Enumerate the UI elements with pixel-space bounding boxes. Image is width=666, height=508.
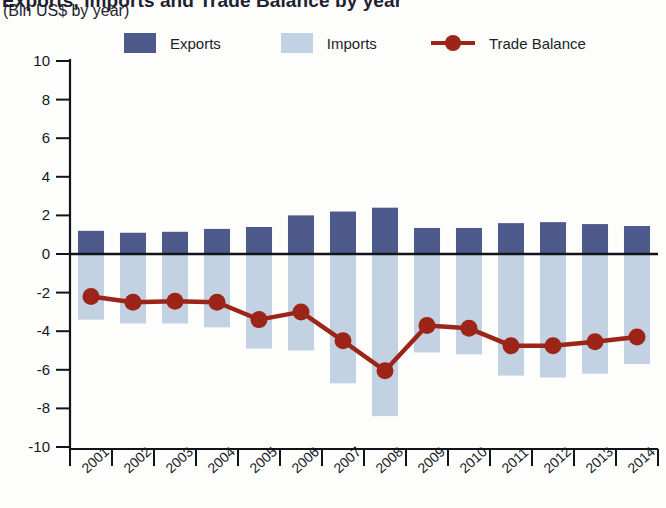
y-tick-group: 1086420-2-4-6-8-10 [28, 52, 70, 455]
bar-imports [330, 254, 356, 383]
y-tick-label: -2 [37, 284, 50, 301]
bar-exports [288, 215, 314, 254]
bar-exports [120, 233, 146, 254]
bar-exports [540, 222, 566, 254]
trade-balance-marker [167, 293, 184, 310]
bar-exports [498, 223, 524, 254]
trade-balance-marker [83, 288, 100, 305]
trade-balance-marker [545, 337, 562, 354]
y-tick-label: 6 [42, 129, 50, 146]
bar-imports [582, 254, 608, 374]
bar-exports [204, 229, 230, 254]
trade-balance-marker [587, 333, 604, 350]
trade-balance-marker [377, 362, 394, 379]
bar-exports [162, 232, 188, 254]
trade-balance-marker [209, 294, 226, 311]
y-axis: 1086420-2-4-6-8-10 [28, 52, 70, 455]
bar-imports [246, 254, 272, 349]
y-tick-label: -4 [37, 322, 50, 339]
bar-exports [78, 231, 104, 254]
y-tick-label: -10 [28, 438, 50, 455]
bar-exports [330, 212, 356, 254]
trade-balance-marker [293, 303, 310, 320]
trade-balance-marker [461, 320, 478, 337]
bar-exports [372, 208, 398, 254]
plot-area: 1086420-2-4-6-8-10 200120022003200420052… [0, 0, 666, 508]
trade-balance-marker [335, 332, 352, 349]
y-tick-label: 0 [42, 245, 50, 262]
y-tick-label: -8 [37, 399, 50, 416]
bar-imports [288, 254, 314, 351]
y-tick-label: 4 [42, 168, 50, 185]
bar-imports [372, 254, 398, 416]
trade-balance-marker [503, 337, 520, 354]
bar-imports [120, 254, 146, 323]
trade-balance-marker [125, 294, 142, 311]
trade-balance-marker [629, 328, 646, 345]
bar-exports [624, 226, 650, 254]
bar-imports [162, 254, 188, 323]
bar-imports [204, 254, 230, 327]
chart-page: Exports, Imports and Trade Balance by ye… [0, 0, 666, 508]
bar-exports [414, 228, 440, 254]
bar-exports [582, 224, 608, 254]
y-tick-label: 2 [42, 206, 50, 223]
bar-imports [456, 254, 482, 354]
bar-imports [78, 254, 104, 320]
bar-imports [498, 254, 524, 376]
y-tick-label: 8 [42, 91, 50, 108]
y-tick-label: 10 [33, 52, 50, 69]
trade-balance-marker [251, 311, 268, 328]
chart-svg: 1086420-2-4-6-8-10 200120022003200420052… [0, 0, 666, 508]
y-tick-label: -6 [37, 361, 50, 378]
bar-imports [540, 254, 566, 378]
bars-imports [78, 254, 650, 416]
bar-imports [624, 254, 650, 364]
bars-exports [78, 208, 650, 254]
bar-exports [456, 228, 482, 254]
trade-balance-marker [419, 317, 436, 334]
bar-exports [246, 227, 272, 254]
